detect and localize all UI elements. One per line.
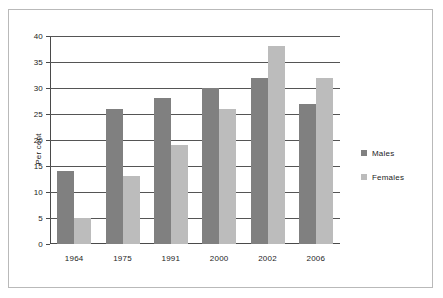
y-tick-label: 25 — [34, 110, 43, 119]
bar-group — [57, 36, 91, 244]
x-tick-label: 2006 — [286, 254, 346, 263]
legend-label: Females — [372, 173, 404, 182]
gridline — [50, 140, 340, 141]
legend-item-females[interactable]: Females — [361, 169, 427, 185]
bar-group — [106, 36, 140, 244]
y-tick-label: 5 — [38, 214, 43, 223]
bar-group — [202, 36, 236, 244]
y-tick-mark — [46, 192, 50, 193]
bar-males-1975 — [106, 109, 123, 244]
legend-swatch-icon — [361, 150, 367, 156]
bar-males-1991 — [154, 98, 171, 244]
bar-females-2002 — [268, 46, 285, 244]
gridline — [50, 62, 340, 63]
plot-area-wrapper: 0510152025303540 19641975199120002002200… — [50, 36, 340, 244]
gridline — [50, 114, 340, 115]
y-tick-mark — [46, 218, 50, 219]
legend-item-males[interactable]: Males — [361, 145, 427, 161]
gridline — [50, 192, 340, 193]
gridline — [50, 36, 340, 37]
y-tick-label: 15 — [34, 162, 43, 171]
gridline — [50, 218, 340, 219]
gridline — [50, 166, 340, 167]
y-tick-mark — [46, 88, 50, 89]
bar-females-2006 — [316, 78, 333, 244]
y-tick-mark — [46, 140, 50, 141]
chart-figure: Per cent 0510152025303540 19641975199120… — [8, 9, 433, 288]
y-tick-label: 35 — [34, 58, 43, 67]
bar-females-1964 — [74, 218, 91, 244]
bar-males-1964 — [57, 171, 74, 244]
y-tick-mark — [46, 244, 50, 245]
y-tick-label: 30 — [34, 84, 43, 93]
y-tick-mark — [46, 166, 50, 167]
bar-males-2000 — [202, 88, 219, 244]
bar-group — [299, 36, 333, 244]
bar-females-2000 — [219, 109, 236, 244]
gridline — [50, 88, 340, 89]
y-tick-mark — [46, 36, 50, 37]
y-tick-label: 10 — [34, 188, 43, 197]
legend-swatch-icon — [361, 174, 367, 180]
legend-label: Males — [372, 149, 394, 158]
y-tick-mark — [46, 62, 50, 63]
y-tick-label: 0 — [38, 240, 43, 249]
chart-legend: MalesFemales — [361, 145, 427, 193]
bar-group — [154, 36, 188, 244]
y-tick-mark — [46, 114, 50, 115]
bar-females-1991 — [171, 145, 188, 244]
bar-group — [251, 36, 285, 244]
y-tick-label: 40 — [34, 32, 43, 41]
y-tick-label: 20 — [34, 136, 43, 145]
bar-males-2006 — [299, 104, 316, 244]
bar-males-2002 — [251, 78, 268, 244]
bar-females-1975 — [123, 176, 140, 244]
